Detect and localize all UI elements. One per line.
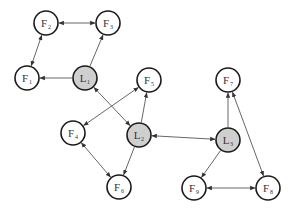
node-label: L <box>223 134 230 146</box>
edge-f4-f5 <box>84 87 139 125</box>
node-f7: F7 <box>216 68 240 92</box>
node-f8: F8 <box>256 176 280 200</box>
node-subscript: 6 <box>121 188 124 194</box>
node-f4: F4 <box>61 121 85 145</box>
node-subscript: 8 <box>270 189 273 195</box>
node-f6: F6 <box>107 175 131 199</box>
node-f9: F9 <box>182 176 206 200</box>
edge-l2-f5 <box>141 93 146 122</box>
edge-f4-f6 <box>81 143 110 177</box>
node-label: F <box>263 182 269 194</box>
node-f3: F3 <box>96 11 120 35</box>
node-label: F <box>189 182 195 194</box>
nodes-layer: F1F2F3L1F5F4L2F6F7L3F9F8 <box>15 11 280 200</box>
node-label: F <box>223 74 229 86</box>
node-f2: F2 <box>34 11 58 35</box>
node-label: L <box>134 129 141 141</box>
node-label: F <box>144 74 150 86</box>
edge-l2-l3 <box>152 136 215 140</box>
node-subscript: 4 <box>75 134 78 140</box>
node-subscript: 3 <box>230 141 233 147</box>
edge-l1-l2 <box>94 87 130 125</box>
node-l1: L1 <box>73 66 97 90</box>
edge-l3-f9 <box>202 151 221 178</box>
edge-l2-f6 <box>124 147 135 175</box>
node-f1: F1 <box>15 66 39 90</box>
node-label: F <box>114 181 120 193</box>
node-label: F <box>103 17 109 29</box>
node-label: F <box>22 72 28 84</box>
edges-layer <box>31 23 263 188</box>
node-label: L <box>80 72 87 84</box>
node-subscript: 5 <box>151 81 154 87</box>
node-subscript: 7 <box>230 81 233 87</box>
edge-f2-f1 <box>31 35 42 65</box>
edge-l1-f3 <box>90 35 103 66</box>
node-subscript: 2 <box>141 136 144 142</box>
node-label: F <box>68 127 74 139</box>
graph-canvas: F1F2F3L1F5F4L2F6F7L3F9F8 <box>0 0 292 211</box>
node-subscript: 3 <box>110 24 113 30</box>
node-subscript: 2 <box>48 24 51 30</box>
node-f5: F5 <box>137 68 161 92</box>
node-l2: L2 <box>127 123 151 147</box>
node-label: F <box>41 17 47 29</box>
node-subscript: 1 <box>87 79 90 85</box>
node-subscript: 9 <box>196 189 199 195</box>
node-subscript: 1 <box>29 79 32 85</box>
node-l3: L3 <box>216 128 240 152</box>
